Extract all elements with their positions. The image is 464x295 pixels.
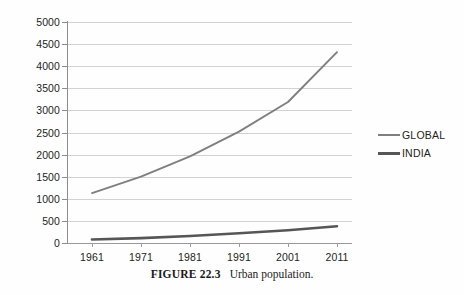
- legend-item-india[interactable]: INDIA: [378, 144, 464, 162]
- chart-legend: GLOBAL INDIA: [378, 126, 464, 162]
- series-line-india: [92, 226, 337, 239]
- line-swatch-icon: [378, 152, 400, 155]
- line-swatch-icon: [378, 134, 400, 136]
- figure-caption: FIGURE 22.3Urban population.: [0, 268, 464, 280]
- legend-label-global: GLOBAL: [400, 129, 445, 141]
- figure-caption-text: Urban population.: [221, 268, 314, 280]
- figure-container: 5000 4500 4000 3500 3000 2500 2000 1500 …: [0, 0, 464, 295]
- legend-item-global[interactable]: GLOBAL: [378, 126, 464, 144]
- legend-label-india: INDIA: [400, 147, 431, 159]
- figure-number: FIGURE 22.3: [151, 268, 221, 280]
- series-line-global: [92, 52, 337, 193]
